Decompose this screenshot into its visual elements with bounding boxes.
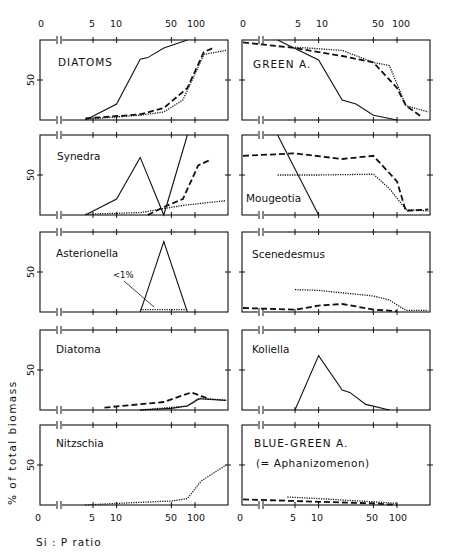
tick-label: 10 xyxy=(316,18,328,29)
y-tick-label: 50 xyxy=(25,364,36,376)
top-axis-left: 0 5 10 50 100 xyxy=(38,18,205,29)
tick-label: 5 xyxy=(295,18,301,29)
panel-synedra: 50 xyxy=(25,131,231,219)
series-dotted xyxy=(85,465,226,505)
panel-diatoms: 50 xyxy=(25,36,231,124)
y-tick-label: 50 xyxy=(25,459,36,471)
panel-frame xyxy=(40,330,228,410)
tick-label: 0 xyxy=(240,18,246,29)
series-dashed xyxy=(243,42,421,116)
annotation-lt1pct: <1% xyxy=(113,270,134,280)
tick-label: 50 xyxy=(366,512,378,523)
bottom-axis-right: 0 5 10 50 100 xyxy=(237,512,407,523)
panel-frame xyxy=(40,135,228,215)
panel-frame xyxy=(40,40,228,120)
tick-label: 50 xyxy=(372,18,384,29)
tick-label: 5 xyxy=(89,512,95,523)
panel-diatoma: 50 xyxy=(25,326,231,414)
panel-title-diatoma: Diatoma xyxy=(56,343,101,355)
tick-label: 100 xyxy=(389,512,407,523)
y-tick-label: 50 xyxy=(25,169,36,181)
series-solid xyxy=(295,356,389,410)
panel-title-scenedesmus: Scenedesmus xyxy=(252,248,325,260)
panel-frame xyxy=(242,40,430,120)
panel-title-synedra: Synedra xyxy=(57,150,100,162)
series-dotted xyxy=(85,201,226,215)
tick-label: 10 xyxy=(311,512,323,523)
y-tick-label: 50 xyxy=(25,74,36,86)
panel-title-mougeotia: Mougeotia xyxy=(246,192,301,204)
tick-label: 0 xyxy=(38,18,44,29)
y-axis-label: % of total biomass xyxy=(6,380,18,505)
panel-frame xyxy=(242,232,430,312)
panel-title-asterionella: Asterionella xyxy=(56,247,118,259)
series-dashed xyxy=(105,392,209,407)
series-dashed xyxy=(148,161,209,215)
tick-label: 5 xyxy=(89,18,95,29)
series-dotted xyxy=(140,398,226,410)
series-solid xyxy=(278,40,397,120)
series-solid xyxy=(85,40,187,120)
tick-label: 100 xyxy=(392,18,410,29)
panel-mougeotia xyxy=(239,131,433,219)
series-dotted xyxy=(295,47,428,112)
panel-title-nitzschia: Nitzschia xyxy=(56,437,104,449)
panel-nitzschia: 50 xyxy=(25,421,231,509)
tick-label: 10 xyxy=(110,512,122,523)
panel-koliella xyxy=(239,326,433,414)
tick-label: 100 xyxy=(187,512,205,523)
bottom-axis-left: 0 5 10 50 100 xyxy=(35,512,205,523)
panel-title-koliella: Koliella xyxy=(252,343,289,355)
tick-label: 5 xyxy=(290,512,296,523)
tick-label: 10 xyxy=(110,18,122,29)
tick-label: 100 xyxy=(187,18,205,29)
panel-title-diatoms: DIATOMS xyxy=(58,56,113,68)
x-axis-label: Si : P ratio xyxy=(36,536,102,548)
panel-frame xyxy=(242,330,430,410)
top-axis-right: 0 5 10 50 100 xyxy=(240,18,410,29)
tick-label: 50 xyxy=(165,18,177,29)
tick-label: 0 xyxy=(35,512,41,523)
panel-scenedesmus xyxy=(239,228,433,316)
figure: 0 5 10 50 100 0 5 10 50 100 5050505050 D… xyxy=(0,0,449,553)
series-dashed xyxy=(243,304,397,311)
panel-green-a- xyxy=(239,36,433,124)
y-tick-label: 50 xyxy=(25,266,36,278)
panel-subtitle-bluegreen: (= Aphanizomenon) xyxy=(256,457,370,469)
tick-label: 50 xyxy=(165,512,177,523)
panel-title-bluegreen: BLUE-GREEN A. xyxy=(254,437,348,449)
panel-frame xyxy=(40,232,228,312)
tick-label: 0 xyxy=(237,512,243,523)
panel-title-green: GREEN A. xyxy=(253,58,311,70)
